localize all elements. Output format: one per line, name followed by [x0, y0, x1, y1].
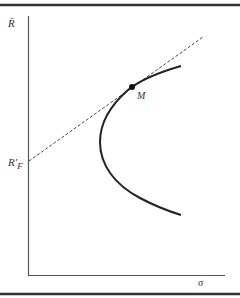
intercept-label-main: R′	[7, 156, 18, 168]
efficient-frontier-curve	[100, 66, 181, 215]
y-axis-label: R̄	[7, 17, 15, 29]
x-axis-label: σ	[198, 277, 204, 288]
tangency-point-m	[129, 84, 135, 90]
point-m-label: M	[136, 90, 146, 101]
diagram-canvas: R̄ R′F M σ	[0, 0, 240, 298]
intercept-label: R′F	[7, 156, 23, 171]
diagram-frame: R̄ R′F M σ	[0, 0, 240, 298]
capital-market-line	[29, 37, 203, 161]
intercept-label-sub: F	[16, 161, 23, 171]
